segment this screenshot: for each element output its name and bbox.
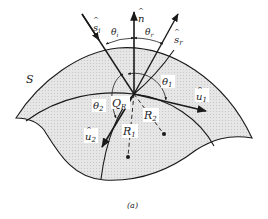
label-theta-r: θr (145, 27, 154, 38)
svg-text:^: ^ (197, 86, 203, 94)
theta-i-arc (106, 38, 134, 44)
center-r2 (162, 132, 166, 136)
label-u2: u2 ^ (84, 126, 98, 144)
center-r1 (126, 155, 130, 159)
reflection-geometry-diagram: si ^ n ^ sr ^ θi θr θ1 θ2 QR R2 R1 u1 ^ … (0, 0, 268, 219)
svg-text:^: ^ (86, 126, 92, 134)
svg-text:^: ^ (93, 16, 99, 24)
label-s-r: sr ^ (174, 28, 183, 47)
label-surface-s: S (26, 73, 34, 86)
label-theta-i: θi (111, 27, 118, 38)
svg-text:^: ^ (174, 28, 180, 36)
figure-caption: (a) (127, 201, 138, 210)
label-u1: u1 ^ (195, 86, 209, 104)
theta-r-arc (134, 38, 163, 44)
svg-text:^: ^ (138, 7, 144, 15)
label-n: n ^ (138, 7, 144, 24)
label-s-i: si ^ (93, 16, 100, 35)
